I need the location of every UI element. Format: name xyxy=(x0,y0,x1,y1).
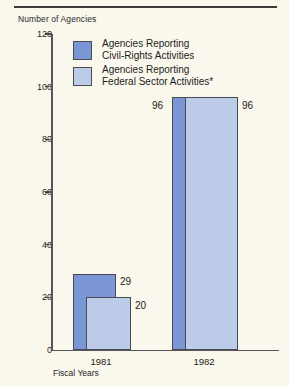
legend-swatch-civil-rights xyxy=(73,41,92,60)
bar-1981-federal-sector xyxy=(86,297,131,350)
y-tick-label-80: 80 xyxy=(12,134,52,144)
x-label-1982: 1982 xyxy=(193,356,214,367)
y-tick-label-120: 120 xyxy=(12,29,52,39)
y-tick-label-60: 60 xyxy=(12,187,52,197)
legend-swatch-federal-sector xyxy=(73,67,92,86)
bar-value-1981-federal-sector: 20 xyxy=(135,300,146,311)
legend-label-federal-sector-line2: Federal Sector Activities* xyxy=(102,76,213,87)
top-divider-rule xyxy=(14,6,277,8)
chart-figure: Number of Agencies 120 100 80 60 40 20 0… xyxy=(0,0,289,386)
bar-value-1982-civil-rights: 96 xyxy=(152,100,163,111)
y-tick-label-0: 0 xyxy=(12,345,52,355)
y-axis-line xyxy=(51,34,53,351)
bar-value-1981-civil-rights: 29 xyxy=(120,276,131,287)
legend-label-federal-sector: Agencies Reporting Federal Sector Activi… xyxy=(102,64,213,87)
x-axis-title: Fiscal Years xyxy=(53,368,99,378)
bar-1982-federal-sector xyxy=(185,97,238,350)
y-tick-label-100: 100 xyxy=(12,82,52,92)
y-axis-title: Number of Agencies xyxy=(18,14,96,24)
legend-label-civil-rights-line1: Agencies Reporting xyxy=(102,38,189,49)
bar-value-1982-federal-sector: 96 xyxy=(242,100,253,111)
x-label-1981: 1981 xyxy=(90,356,111,367)
legend-label-civil-rights-line2: Civil-Rights Activities xyxy=(102,50,194,61)
legend-label-federal-sector-line1: Agencies Reporting xyxy=(102,64,189,75)
y-tick-label-40: 40 xyxy=(12,240,52,250)
y-tick-label-20: 20 xyxy=(12,292,52,302)
legend-label-civil-rights: Agencies Reporting Civil-Rights Activiti… xyxy=(102,38,194,61)
